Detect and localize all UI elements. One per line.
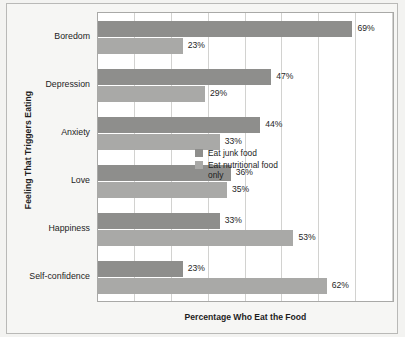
bar-value-label: 33%: [225, 216, 242, 225]
category-label: Self-confidence: [6, 271, 90, 282]
bar-value-label: 69%: [357, 24, 374, 33]
bar-group: 69%23%: [98, 13, 393, 61]
bar-value-label: 53%: [298, 233, 315, 242]
x-axis-title: Percentage Who Eat the Food: [97, 312, 394, 322]
bar-value-label: 44%: [265, 120, 282, 129]
bar-value-label: 62%: [332, 281, 349, 290]
legend-swatch-nutritional: [195, 161, 203, 169]
bar-junk-food: [98, 69, 271, 85]
legend-swatch-junk: [195, 149, 203, 157]
legend-label: Eat junk food: [208, 148, 257, 158]
bar-group: 47%29%: [98, 61, 393, 109]
bar-nutritional-food: [98, 86, 205, 102]
chart-figure: Feeling That Triggers Eating BoredomDepr…: [0, 0, 405, 337]
bar-value-label: 47%: [276, 72, 293, 81]
bar-nutritional-food: [98, 182, 227, 198]
bar-value-label: 23%: [188, 264, 205, 273]
bar-value-label: 35%: [232, 185, 249, 194]
legend-label: Eat nutritional food only: [208, 160, 295, 180]
bar-nutritional-food: [98, 38, 183, 54]
category-label: Happiness: [6, 223, 90, 234]
category-label: Boredom: [6, 31, 90, 42]
category-label: Anxiety: [6, 127, 90, 138]
bar-junk-food: [98, 117, 260, 133]
bar-junk-food: [98, 21, 352, 37]
bar-junk-food: [98, 261, 183, 277]
bar-value-label: 29%: [210, 89, 227, 98]
bar-junk-food: [98, 213, 220, 229]
bar-nutritional-food: [98, 230, 293, 246]
bar-group: 33%53%: [98, 205, 393, 253]
category-label: Love: [6, 175, 90, 186]
bar-group: 23%62%: [98, 253, 393, 301]
bar-value-label: 33%: [225, 137, 242, 146]
y-axis-category-labels: BoredomDepressionAnxietyLoveHappinessSel…: [8, 12, 94, 302]
bar-value-label: 23%: [188, 41, 205, 50]
legend-item: Eat nutritional food only: [195, 160, 295, 180]
category-label: Depression: [6, 79, 90, 90]
legend-item: Eat junk food: [195, 148, 295, 158]
bar-nutritional-food: [98, 278, 327, 294]
legend: Eat junk foodEat nutritional food only: [195, 148, 295, 182]
